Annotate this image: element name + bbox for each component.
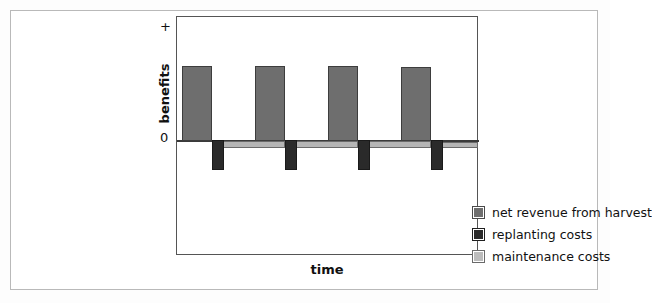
legend-label-1: net revenue from harvest — [492, 206, 652, 219]
legend-label-2: replanting costs — [492, 228, 592, 241]
y-axis-title: benefits — [157, 49, 172, 139]
plot-inner — [177, 17, 477, 254]
bar-replanting-cost-3 — [358, 140, 370, 170]
legend-item-1: net revenue from harvest — [473, 201, 652, 223]
bar-replanting-cost-2 — [285, 140, 297, 170]
chart-legend: net revenue from harvestreplanting costs… — [473, 201, 652, 267]
legend-item-2: replanting costs — [473, 223, 652, 245]
legend-swatch-icon-1 — [473, 207, 484, 218]
y-axis-tick-plus: + — [160, 20, 171, 33]
legend-swatch-icon-3 — [473, 251, 484, 262]
bar-replanting-cost-4 — [431, 140, 443, 170]
bar-maintenance-cost-3 — [367, 141, 431, 148]
bar-maintenance-cost-2 — [294, 141, 358, 148]
legend-swatch-icon-2 — [473, 229, 484, 240]
bar-maintenance-cost-1 — [221, 141, 285, 148]
bar-net-revenue-2 — [255, 66, 285, 141]
legend-item-3: maintenance costs — [473, 245, 652, 267]
x-axis-title: time — [176, 262, 478, 277]
legend-label-3: maintenance costs — [492, 250, 610, 263]
bar-net-revenue-4 — [401, 67, 431, 141]
bar-maintenance-cost-4 — [440, 142, 478, 148]
bar-replanting-cost-1 — [212, 140, 224, 170]
bar-net-revenue-1 — [182, 66, 212, 141]
plot-area: net revenue from harvestreplanting costs… — [176, 16, 478, 255]
bar-net-revenue-3 — [328, 66, 358, 141]
